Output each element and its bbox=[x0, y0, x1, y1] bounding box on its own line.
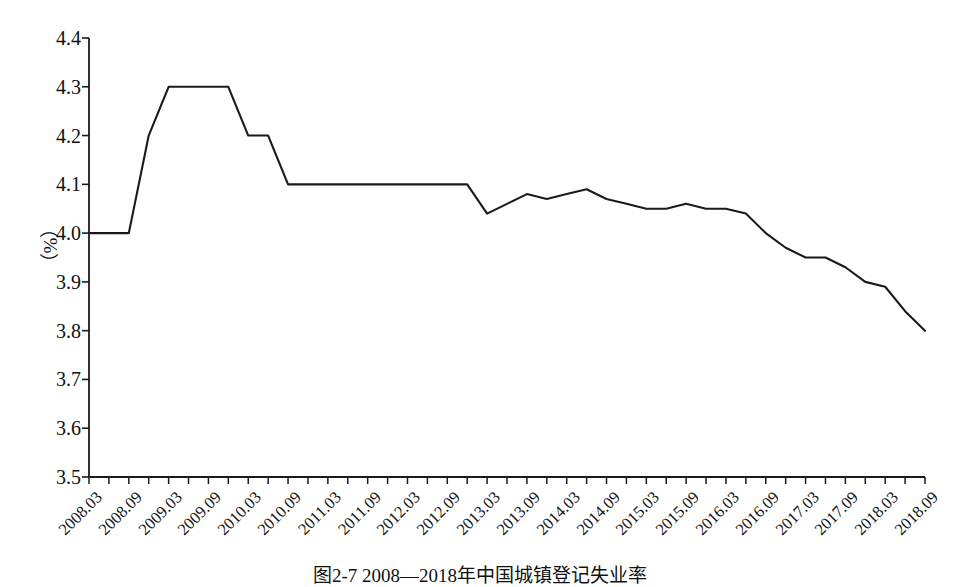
x-tick-label: 2009.09 bbox=[176, 489, 226, 539]
x-tick-label: 2015.09 bbox=[653, 489, 703, 539]
x-tick-label: 2012.03 bbox=[375, 489, 425, 539]
figure-caption: 图2-7 2008—2018年中国城镇登记失业率 bbox=[0, 560, 960, 587]
x-tick-label: 2012.09 bbox=[414, 489, 464, 539]
x-tick-label: 2009.03 bbox=[136, 489, 186, 539]
x-tick-label: 2011.09 bbox=[335, 489, 384, 538]
x-tick-label: 2011.03 bbox=[295, 489, 344, 538]
x-tick-label: 2015.03 bbox=[613, 489, 663, 539]
x-tick-label: 2018.03 bbox=[852, 489, 902, 539]
x-tick-label: 2017.03 bbox=[773, 489, 823, 539]
x-tick-label: 2010.03 bbox=[215, 489, 265, 539]
x-tick-label: 2013.03 bbox=[454, 489, 504, 539]
x-tick-label: 2010.09 bbox=[255, 489, 305, 539]
x-tick-label: 2017.09 bbox=[812, 489, 862, 539]
x-tick-label: 2014.09 bbox=[574, 489, 624, 539]
x-tick-label: 2016.09 bbox=[733, 489, 783, 539]
x-tick-label: 2008.09 bbox=[96, 489, 146, 539]
x-tick-label: 2014.03 bbox=[534, 489, 584, 539]
x-tick-label: 2016.03 bbox=[693, 489, 743, 539]
x-tick-label: 2018.09 bbox=[892, 489, 942, 539]
x-tick-label: 2013.09 bbox=[494, 489, 544, 539]
x-tick-label: 2008.03 bbox=[56, 489, 106, 539]
